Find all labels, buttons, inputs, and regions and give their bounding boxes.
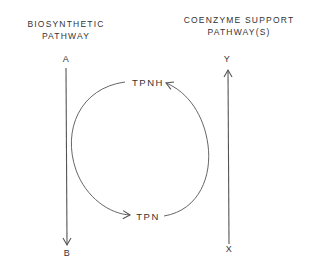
heading-line: BIOSYNTHETIC (0, 18, 132, 30)
node-y: Y (219, 54, 235, 64)
heading-line: PATHWAY(S) (168, 26, 310, 38)
cycle-left-arc (71, 82, 130, 215)
cycle-right-arc (164, 83, 209, 216)
biosynthetic-heading: BIOSYNTHETIC PATHWAY (0, 18, 132, 42)
cofactor-tpnh: TPNH (126, 77, 170, 88)
support-heading: COENZYME SUPPORT PATHWAY(S) (168, 14, 310, 38)
support-arrow (228, 70, 229, 244)
node-b: B (59, 248, 75, 258)
cofactor-tpn: TPN (130, 211, 166, 222)
heading-line: PATHWAY (0, 30, 132, 42)
biosynthetic-arrow (66, 68, 67, 245)
heading-line: COENZYME SUPPORT (168, 14, 310, 26)
node-x: X (221, 244, 237, 254)
node-a: A (58, 54, 74, 64)
diagram-canvas: BIOSYNTHETIC PATHWAY COENZYME SUPPORT PA… (0, 0, 310, 270)
